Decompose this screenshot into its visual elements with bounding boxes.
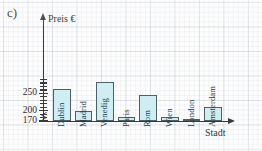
bar-label: Madrid xyxy=(78,101,88,127)
bar-label: Amsterdam xyxy=(207,86,217,127)
bar-label: London xyxy=(186,100,196,127)
bar-label: Rom xyxy=(142,110,152,127)
bar-label: Paris xyxy=(121,109,131,127)
bars-group: DublinMadridVenedigParisRomWienLondonAms… xyxy=(0,0,262,151)
bar-label: Wien xyxy=(164,108,174,127)
bar-chart-screenshot: c) Preis € Stadt 250200170 DublinMadridV… xyxy=(0,0,262,151)
bar-label: Venedig xyxy=(99,98,109,127)
bar-label: Dublin xyxy=(56,103,66,127)
